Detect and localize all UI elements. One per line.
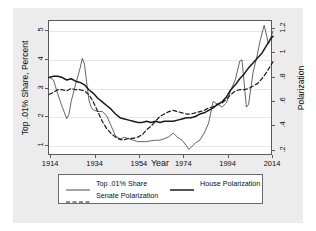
plot-frame (48, 20, 272, 155)
y-tick-left: 2 (36, 110, 45, 122)
y-tickmark-right (272, 150, 275, 151)
y-tickmark-left (45, 145, 48, 146)
y-tickmark-left (45, 59, 48, 60)
y-tick-right: .4 (278, 119, 287, 131)
y-tickmark-right (272, 125, 275, 126)
series-lines (49, 21, 273, 156)
y-tick-right: .2 (278, 143, 287, 155)
legend-entry: House Polarization (169, 179, 260, 188)
legend-entry: Top .01% Share (65, 179, 147, 188)
plot-area: Top .01% Share, Percent Polarization 123… (48, 20, 272, 155)
figure: Top .01% Share, Percent Polarization 123… (13, 8, 303, 223)
y-tickmark-left (45, 30, 48, 31)
x-axis-title: Year (48, 158, 272, 168)
y-tickmark-left (45, 88, 48, 89)
y-tick-left: 1 (36, 138, 45, 150)
legend-entry: Senate Polarization (65, 191, 158, 200)
legend-key (169, 180, 195, 188)
legend-label: House Polarization (200, 179, 260, 188)
y-tickmark-left (45, 116, 48, 117)
series-line (49, 25, 273, 149)
legend-label: Top .01% Share (96, 179, 147, 188)
y-tick-left: 4 (36, 52, 45, 64)
chart-legend: Top .01% ShareHouse PolarizationSenate P… (58, 174, 263, 204)
y-tickmark-right (272, 52, 275, 53)
y-tickmark-right (272, 77, 275, 78)
y-tick-right: .6 (278, 94, 287, 106)
y-tick-right: .8 (278, 70, 287, 82)
series-line (49, 36, 273, 122)
legend-key (65, 180, 91, 188)
x-tickmark (272, 155, 273, 158)
y-axis-right-title: Polarization (294, 20, 308, 155)
legend-label: Senate Polarization (96, 191, 158, 200)
y-tickmark-right (272, 28, 275, 29)
y-tick-left: 3 (36, 81, 45, 93)
y-tickmark-right (272, 101, 275, 102)
legend-key (65, 192, 91, 200)
y-tick-left: 5 (36, 24, 45, 36)
y-tick-right: 1.2 (278, 21, 287, 33)
series-line (49, 62, 273, 140)
y-axis-left-title: Top .01% Share, Percent (18, 20, 32, 155)
y-tick-right: 1 (278, 46, 287, 58)
